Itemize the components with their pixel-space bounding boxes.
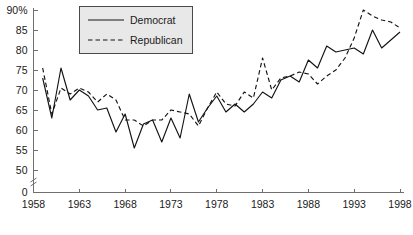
y-tick-label: 50 bbox=[16, 164, 28, 176]
x-tick-label: 1958 bbox=[22, 198, 46, 210]
y-tick-label: 90% bbox=[6, 4, 27, 16]
x-tick-group: 195819631968197319781983198819931998 bbox=[22, 189, 412, 210]
chart-legend: Democrat Republican bbox=[80, 7, 193, 54]
y-tick-label: 75 bbox=[16, 64, 28, 76]
y-tick-group: 90%85807570656055500 bbox=[6, 4, 37, 199]
legend-label-democrat: Democrat bbox=[130, 14, 176, 26]
x-tick-label: 1993 bbox=[343, 198, 367, 210]
y-tick-label: 85 bbox=[16, 24, 28, 36]
x-tick-label: 1973 bbox=[159, 198, 183, 210]
y-tick-label: 60 bbox=[16, 124, 28, 136]
y-tick-label: 80 bbox=[16, 44, 28, 56]
x-tick-label: 1983 bbox=[251, 198, 275, 210]
x-tick-label: 1963 bbox=[68, 198, 92, 210]
line-chart: 90%85807570656055500 1958196319681973197… bbox=[0, 0, 413, 235]
y-tick-label: 55 bbox=[16, 144, 28, 156]
legend-label-republican: Republican bbox=[130, 34, 183, 46]
chart-container: 90%85807570656055500 1958196319681973197… bbox=[0, 0, 413, 235]
x-tick-label: 1988 bbox=[297, 198, 321, 210]
x-tick-label: 1998 bbox=[388, 198, 412, 210]
y-tick-label: 0 bbox=[22, 186, 28, 198]
y-tick-label: 65 bbox=[16, 104, 28, 116]
y-tick-label: 70 bbox=[16, 84, 28, 96]
x-tick-label: 1968 bbox=[113, 198, 137, 210]
x-tick-label: 1978 bbox=[205, 198, 229, 210]
